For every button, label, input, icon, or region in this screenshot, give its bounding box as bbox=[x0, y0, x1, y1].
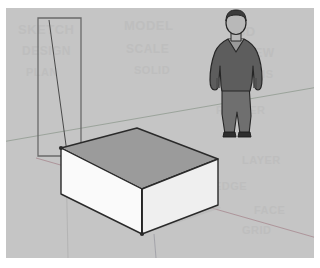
box-corner-vertex-marker[interactable] bbox=[59, 146, 63, 150]
guide-rectangle[interactable] bbox=[38, 18, 81, 160]
modeling-scene-canvas[interactable]: SKETCHMODEL3DDESIGNSCALEVIEWPLANSOLIDAXI… bbox=[6, 8, 314, 258]
scale-figure-person[interactable] bbox=[210, 10, 262, 137]
guide-rectangle-outline bbox=[38, 18, 81, 156]
viewport-frame: SKETCHMODEL3DDESIGNSCALEVIEWPLANSOLIDAXI… bbox=[0, 0, 320, 268]
box-solid[interactable] bbox=[59, 128, 218, 236]
scene-geometry bbox=[6, 8, 314, 258]
vertical-guide-line bbox=[154, 234, 156, 258]
figure-shoe-right bbox=[238, 132, 251, 137]
green-axis-line bbox=[6, 86, 314, 143]
figure-hand-right bbox=[253, 78, 257, 88]
guide-rectangle-diagonal bbox=[49, 20, 68, 160]
figure-shoe-left bbox=[223, 132, 236, 137]
figure-hand-left bbox=[216, 78, 220, 88]
box-bottom-vertex-marker[interactable] bbox=[140, 232, 144, 236]
